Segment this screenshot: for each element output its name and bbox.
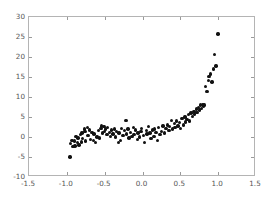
data-point xyxy=(212,67,215,70)
data-point xyxy=(178,121,181,124)
y-axis-tick-mark xyxy=(251,57,254,58)
data-point xyxy=(76,136,79,139)
y-axis-tick-mark xyxy=(29,117,32,118)
data-point xyxy=(216,32,219,35)
data-point xyxy=(170,119,173,122)
x-axis-tick-mark xyxy=(180,172,181,175)
y-axis-tick-mark xyxy=(251,77,254,78)
data-point xyxy=(77,143,80,146)
y-axis-tick-mark xyxy=(29,57,32,58)
data-point xyxy=(179,127,182,130)
x-axis-tick-label: 0.5 xyxy=(174,179,185,188)
data-point xyxy=(83,130,86,133)
data-point xyxy=(204,85,207,88)
data-point xyxy=(209,72,212,75)
data-point xyxy=(203,103,206,106)
y-axis-tick-mark xyxy=(251,137,254,138)
data-point xyxy=(147,125,150,128)
y-axis-tick-label: 5 xyxy=(20,112,25,121)
data-point xyxy=(86,134,89,137)
data-point xyxy=(158,133,161,136)
y-axis-tick-mark xyxy=(251,117,254,118)
data-point xyxy=(84,139,87,142)
data-point xyxy=(157,126,160,129)
data-point xyxy=(114,135,117,138)
x-axis-tick-label: 1.0 xyxy=(211,179,222,188)
x-axis-tick-mark xyxy=(180,17,181,20)
data-point xyxy=(156,139,159,142)
data-point xyxy=(205,90,208,93)
x-axis-tick-mark xyxy=(67,172,68,175)
y-axis-tick-label: 30 xyxy=(16,12,25,21)
y-axis-tick-mark xyxy=(29,157,32,158)
data-point xyxy=(210,80,213,83)
y-axis-tick-label: 25 xyxy=(16,32,25,41)
y-axis-tick-mark xyxy=(29,37,32,38)
data-point xyxy=(143,141,146,144)
data-point xyxy=(139,130,142,133)
y-axis-tick-label: 0 xyxy=(20,132,25,141)
y-axis-tick-label: -5 xyxy=(18,152,25,161)
data-point xyxy=(163,131,166,134)
data-point xyxy=(119,139,122,142)
data-point xyxy=(68,155,71,158)
data-point xyxy=(182,123,185,126)
x-axis-tick-mark xyxy=(218,17,219,20)
data-point xyxy=(94,141,97,144)
data-point xyxy=(98,136,101,139)
y-axis-tick-mark xyxy=(29,97,32,98)
x-axis-tick-label: 0.0 xyxy=(136,179,147,188)
data-point xyxy=(80,140,83,143)
x-axis-tick-mark xyxy=(143,172,144,175)
scatter-plot-figure: -10-5051015202530 -1.5-1.0-0.50.00.51.01… xyxy=(0,0,266,199)
y-axis-tick-labels: -10-5051015202530 xyxy=(0,0,25,199)
y-axis-tick-mark xyxy=(29,77,32,78)
x-axis-tick-mark xyxy=(105,172,106,175)
x-axis-tick-label: -0.5 xyxy=(97,179,111,188)
data-point xyxy=(188,119,191,122)
data-point xyxy=(124,119,127,122)
x-axis-tick-label: -1.0 xyxy=(59,179,73,188)
y-axis-tick-mark xyxy=(251,97,254,98)
data-point xyxy=(152,135,155,138)
data-point xyxy=(140,127,143,130)
data-point xyxy=(214,64,217,67)
x-axis-tick-mark xyxy=(143,17,144,20)
plot-area xyxy=(28,16,255,176)
y-axis-tick-mark xyxy=(251,37,254,38)
data-point xyxy=(125,132,128,135)
y-axis-tick-mark xyxy=(29,137,32,138)
data-points-layer xyxy=(29,17,254,175)
y-axis-tick-mark xyxy=(251,157,254,158)
y-axis-tick-label: 10 xyxy=(16,92,25,101)
y-axis-tick-label: 20 xyxy=(16,52,25,61)
x-axis-tick-mark xyxy=(105,17,106,20)
x-axis-tick-label: -1.5 xyxy=(21,179,35,188)
data-point xyxy=(106,126,109,129)
x-axis-tick-mark xyxy=(218,172,219,175)
y-axis-tick-label: 15 xyxy=(16,72,25,81)
x-axis-tick-labels: -1.5-1.0-0.50.00.51.01.5 xyxy=(0,179,266,193)
x-axis-tick-mark xyxy=(67,17,68,20)
data-point xyxy=(213,53,216,56)
data-point xyxy=(138,135,141,138)
data-point xyxy=(148,131,151,134)
x-axis-tick-label: 1.5 xyxy=(249,179,260,188)
